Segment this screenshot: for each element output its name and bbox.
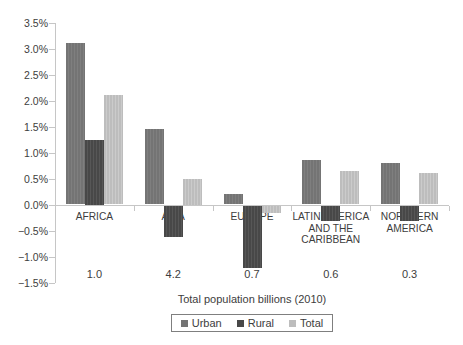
population-value-northern-america: 0.3	[370, 268, 449, 281]
legend-swatch-urban	[181, 320, 188, 327]
y-axis-tick-label: 0.0%	[0, 198, 48, 212]
x-axis-tick	[213, 206, 214, 211]
population-growth-bar-chart: 3.5%3.0%2.5%2.0%1.5%1.0%0.5%0.0%−0.5%−1.…	[0, 0, 463, 345]
bar-urban-africa	[66, 43, 85, 204]
y-axis-tick-label: 3.0%	[0, 42, 48, 56]
bar-total-europe	[262, 206, 281, 214]
legend: UrbanRuralTotal	[55, 314, 449, 332]
legend-swatch-total	[289, 320, 296, 327]
y-axis-tick-label: −1.0%	[0, 250, 48, 264]
legend-item-total: Total	[289, 317, 323, 329]
legend-label-rural: Rural	[248, 317, 274, 329]
y-axis-tick-label: 2.0%	[0, 94, 48, 108]
x-axis-tick	[449, 206, 450, 211]
population-value-europe: 0.7	[213, 268, 292, 281]
bar-total-northern-america	[419, 173, 438, 204]
x-axis-tick	[291, 206, 292, 211]
bar-rural-asia	[164, 206, 183, 237]
bar-urban-asia	[145, 129, 164, 204]
y-axis-tick	[49, 283, 55, 284]
population-value-asia: 4.2	[134, 268, 213, 281]
x-axis-title: Total population billions (2010)	[55, 293, 449, 305]
bar-rural-europe	[243, 206, 262, 268]
bar-urban-europe	[224, 194, 243, 204]
y-axis-tick-label: 2.5%	[0, 68, 48, 82]
bar-total-latin-america-and-the-caribbean	[340, 171, 359, 205]
bar-rural-latin-america-and-the-caribbean	[321, 206, 340, 222]
y-axis-line	[55, 23, 56, 283]
bar-rural-africa	[85, 140, 104, 205]
x-axis-tick	[134, 206, 135, 211]
bar-total-asia	[183, 179, 202, 205]
bar-rural-northern-america	[400, 206, 419, 222]
legend-label-total: Total	[300, 317, 323, 329]
population-value-africa: 1.0	[55, 268, 134, 281]
y-axis-tick-label: 0.5%	[0, 172, 48, 186]
legend-label-urban: Urban	[192, 317, 222, 329]
y-axis-tick-label: 3.5%	[0, 16, 48, 30]
legend-swatch-rural	[237, 320, 244, 327]
y-axis-tick-label: −0.5%	[0, 224, 48, 238]
legend-box: UrbanRuralTotal	[171, 314, 334, 332]
bar-urban-latin-america-and-the-caribbean	[302, 160, 321, 204]
x-axis-tick	[370, 206, 371, 211]
population-value-latin-america-and-the-caribbean: 0.6	[291, 268, 370, 281]
y-axis-tick-label: 1.5%	[0, 120, 48, 134]
bar-urban-northern-america	[381, 163, 400, 205]
legend-item-urban: Urban	[181, 317, 222, 329]
y-axis-tick-label: 1.0%	[0, 146, 48, 160]
y-axis-tick-label: −1.5%	[0, 276, 48, 290]
legend-item-rural: Rural	[237, 317, 274, 329]
bar-total-africa	[104, 95, 123, 204]
